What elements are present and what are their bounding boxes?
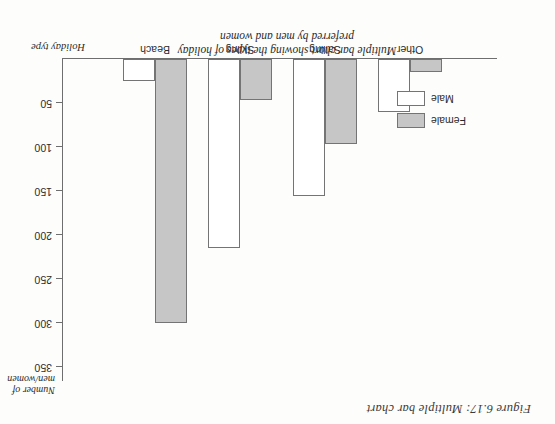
bar-chart: 50 100 150 200 250 300 350 Number of men… xyxy=(0,0,555,424)
bar-skiing-female xyxy=(240,59,272,100)
legend-label-female: Female xyxy=(431,115,469,127)
bar-sailing-male xyxy=(293,59,325,196)
y-axis-label-line1: Number of xyxy=(0,385,55,396)
y-tick-300 xyxy=(56,322,63,323)
y-tick-100 xyxy=(56,146,63,147)
y-tick-label-50: 50 xyxy=(40,98,52,110)
y-tick-200 xyxy=(56,234,63,235)
bar-other-female xyxy=(410,59,442,72)
y-tick-label-100: 100 xyxy=(34,142,52,154)
y-tick-label-350: 350 xyxy=(34,362,52,374)
bar-skiing-male xyxy=(208,59,240,248)
y-tick-label-200: 200 xyxy=(34,230,52,242)
y-axis-label-line2: men/women xyxy=(0,374,55,385)
x-axis-label: Holiday type xyxy=(31,42,85,53)
bar-sailing-female xyxy=(325,59,357,144)
y-tick-label-300: 300 xyxy=(34,318,52,330)
bar-beach-female xyxy=(155,59,187,323)
bar-beach-male xyxy=(123,59,155,81)
legend-label-male: Male xyxy=(431,93,469,105)
y-tick-label-250: 250 xyxy=(34,274,52,286)
y-tick-label-150: 150 xyxy=(34,186,52,198)
legend-swatch-female xyxy=(397,113,425,128)
y-tick-50 xyxy=(56,102,63,103)
chart-title-line2: preferred by men and women xyxy=(137,30,437,44)
rotated-page-content: Figure 6.17: Multiple bar chart 50 100 1… xyxy=(0,0,555,424)
y-tick-150 xyxy=(56,190,63,191)
legend-swatch-male xyxy=(397,91,425,106)
y-tick-250 xyxy=(56,278,63,279)
y-axis-label: Number of men/women xyxy=(0,374,55,396)
chart-title: Multiple bar chart showing the types of … xyxy=(137,30,437,58)
chart-title-line1: Multiple bar chart showing the types of … xyxy=(137,44,437,58)
y-axis-line xyxy=(62,58,63,381)
y-tick-350 xyxy=(56,366,63,367)
